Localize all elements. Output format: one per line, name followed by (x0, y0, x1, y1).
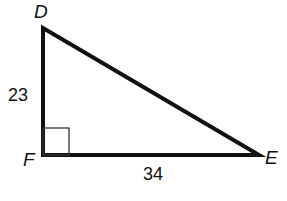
side-label-df: 23 (8, 85, 28, 105)
vertex-label-d: D (34, 1, 48, 22)
vertex-label-f: F (23, 149, 36, 170)
triangle-diagram: D F E 23 34 (0, 0, 287, 201)
triangle-def (43, 28, 259, 155)
vertex-label-e: E (265, 147, 278, 168)
side-label-fe: 34 (143, 164, 163, 184)
right-angle-marker (43, 128, 69, 155)
